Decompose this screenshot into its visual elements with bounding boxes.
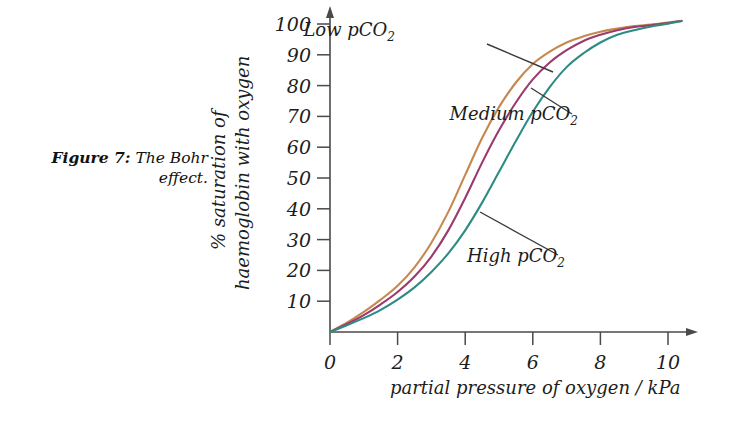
y-tick-label-70: 70 <box>287 105 311 127</box>
x-axis-tick-labels: 0246810 <box>324 351 680 373</box>
x-tick-label-0: 0 <box>324 351 336 373</box>
series-label-high-pco2: High pCO2 <box>466 245 565 270</box>
series-label-low-pco2: Low pCO2 <box>302 19 395 44</box>
x-tick-label-2: 2 <box>391 351 404 373</box>
series-label-subscript: 2 <box>556 256 565 270</box>
y-tick-label-60: 60 <box>287 136 311 158</box>
x-tick-label-8: 8 <box>594 351 606 373</box>
y-axis-title: % saturation of haemoglobin with oxygen <box>208 56 253 290</box>
figure-container: Figure 7: The Bohr effect. 1020304050607… <box>0 0 737 422</box>
leader-line-0 <box>487 44 553 72</box>
curve-low-pco2 <box>330 21 682 332</box>
y-tick-label-50: 50 <box>287 167 311 189</box>
y-tick-label-40: 40 <box>286 198 311 220</box>
y-tick-label-20: 20 <box>286 259 311 281</box>
data-curves <box>330 21 682 332</box>
bohr-effect-chart: 102030405060708090100 0246810 % saturati… <box>0 0 737 422</box>
y-tick-label-80: 80 <box>287 75 311 97</box>
curve-medium-pco2 <box>330 21 682 332</box>
y-axis-arrowhead <box>326 6 334 18</box>
curve-high-pco2 <box>330 21 682 332</box>
x-axis-ticks <box>330 332 668 345</box>
x-tick-label-4: 4 <box>458 351 471 373</box>
x-axis-title: partial pressure of oxygen / kPa <box>390 377 680 398</box>
series-label-subscript: 2 <box>569 114 578 128</box>
series-annotations: Low pCO2Medium pCO2High pCO2 <box>302 19 578 270</box>
series-label-subscript: 2 <box>386 30 395 44</box>
series-label-medium-pco2: Medium pCO2 <box>449 103 578 128</box>
y-axis-tick-labels: 102030405060708090100 <box>275 13 311 312</box>
y-tick-label-10: 10 <box>287 290 311 312</box>
y-tick-label-30: 30 <box>287 229 311 251</box>
y-axis-title-line1: % saturation of <box>208 107 229 250</box>
y-axis-title-line2: haemoglobin with oxygen <box>232 56 253 290</box>
axes-group <box>326 6 698 336</box>
y-axis-ticks <box>317 24 330 301</box>
x-axis-arrowhead <box>686 328 698 336</box>
x-tick-label-10: 10 <box>656 351 680 373</box>
y-tick-label-90: 90 <box>287 44 311 66</box>
x-tick-label-6: 6 <box>527 351 539 373</box>
